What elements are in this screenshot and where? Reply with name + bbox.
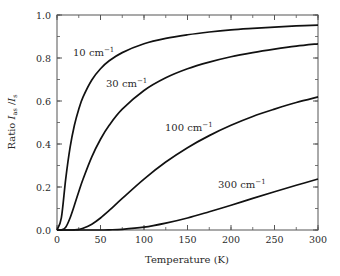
y-tick-label: 0.2	[36, 182, 51, 193]
series-line-3	[57, 179, 318, 230]
line-chart: 050100150200250300 0.00.20.40.60.81.0 10…	[0, 0, 340, 276]
x-tick-label: 0	[54, 234, 60, 245]
series-line-2	[57, 97, 318, 230]
series-label-1: 30 cm−1	[106, 77, 147, 89]
y-tick-label: 0.0	[36, 225, 51, 236]
y-axis-label-num-sub: as	[11, 108, 19, 115]
x-tick-label: 150	[178, 234, 196, 245]
y-axis-label-den-sub: s	[11, 94, 19, 97]
x-tick-label: 50	[94, 234, 106, 245]
y-tick-labels: 0.00.20.40.60.81.0	[36, 10, 51, 236]
y-tick-label: 0.8	[36, 53, 51, 64]
x-tick-labels: 050100150200250300	[54, 234, 327, 245]
x-tick-label: 200	[222, 234, 240, 245]
x-axis-label: Temperature (K)	[145, 254, 229, 265]
series-label-3: 300 cm−1	[218, 178, 266, 190]
x-tick-label: 250	[265, 234, 283, 245]
series-label-2: 100 cm−1	[165, 121, 213, 133]
series-line-1	[57, 44, 318, 230]
y-tick-label: 0.4	[36, 139, 51, 150]
y-tick-label: 1.0	[36, 10, 51, 21]
y-axis-label: Ratio Ias /Is	[6, 94, 19, 149]
y-tick-label: 0.6	[36, 96, 51, 107]
x-tick-label: 300	[309, 234, 327, 245]
x-tick-label: 100	[135, 234, 153, 245]
series-label-0: 10 cm−1	[73, 46, 114, 58]
y-axis-label-prefix: Ratio	[6, 119, 17, 149]
